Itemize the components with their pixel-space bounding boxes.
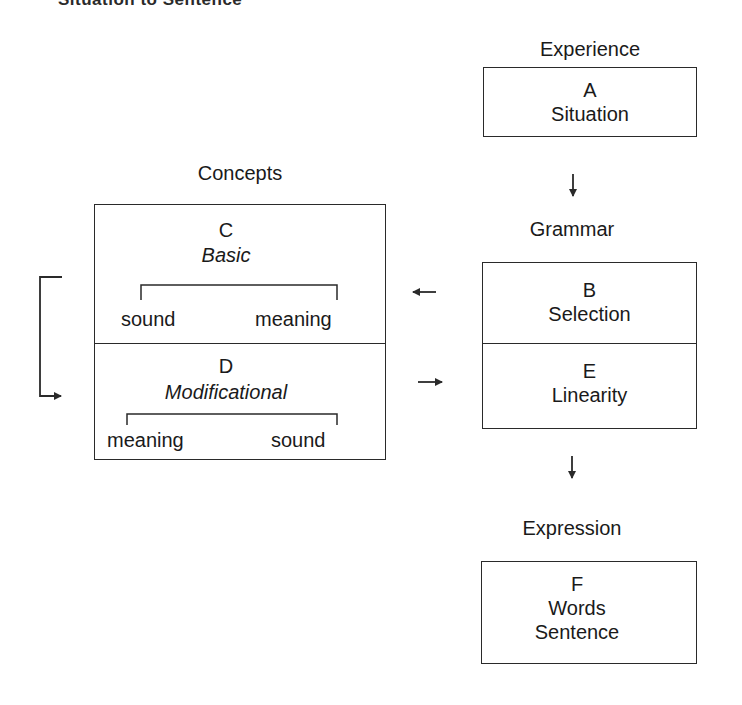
loop-arrow-c-to-d <box>40 277 62 396</box>
box-c-bracket <box>141 285 337 300</box>
connectors <box>0 0 742 705</box>
box-d-bracket <box>127 414 337 425</box>
